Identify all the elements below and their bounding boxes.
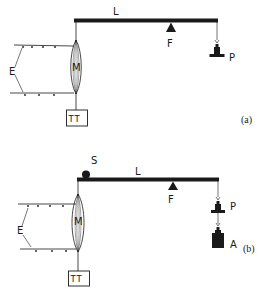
transducer-label: TT [70, 274, 83, 284]
hook-icon [215, 40, 219, 43]
transducer-label: TT [68, 114, 81, 124]
afterload-label: A [230, 239, 237, 250]
muscle-lever-diagram: L F M [0, 0, 271, 290]
stop-icon [82, 171, 90, 179]
electrodes-label: E [9, 66, 15, 77]
fulcrum-label: F [167, 38, 173, 49]
lever-label: L [135, 166, 141, 177]
stop-label: S [91, 155, 97, 166]
lever-label: L [113, 6, 119, 17]
lever-bar [74, 19, 218, 23]
weight-pan-label: P [229, 52, 235, 63]
electrode-pointer-arrows [15, 48, 23, 92]
weight-pan-label: P [230, 201, 236, 212]
lever-bar [77, 178, 219, 182]
hook-icon [216, 197, 220, 200]
electrode-wires [10, 45, 74, 96]
panel-a-label: (a) [241, 114, 252, 126]
fulcrum-label: F [168, 194, 174, 205]
muscle-label: M [72, 62, 81, 73]
weight-pan-icon [210, 44, 225, 57]
electrodes-label: E [17, 225, 23, 236]
panel-a: L F M [9, 6, 252, 126]
muscle-label: M [74, 216, 83, 227]
afterload-weight-icon [212, 227, 224, 248]
fulcrum-icon [168, 182, 178, 191]
panel-b-label: (b) [243, 243, 255, 255]
fulcrum-icon [166, 23, 176, 33]
panel-b: S L F M [17, 155, 255, 286]
electrode-pointer-arrows [22, 208, 31, 247]
weight-pan-icon [211, 201, 225, 213]
